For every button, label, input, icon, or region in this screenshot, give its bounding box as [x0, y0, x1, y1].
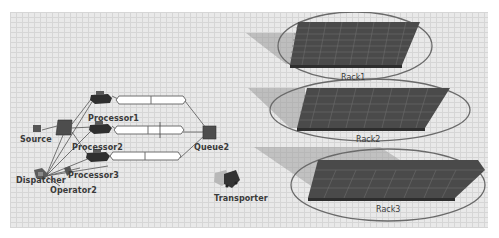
- conveyor-2[interactable]: [114, 122, 184, 138]
- rack2-label: Rack2: [356, 135, 380, 144]
- rack1[interactable]: [278, 12, 432, 80]
- conveyor-1[interactable]: [116, 96, 186, 104]
- model-3d-view[interactable]: Source Processor1 Processor2 Processor3 …: [10, 12, 488, 228]
- transporter-label: Transporter: [214, 194, 268, 203]
- processor3-label: Processor3: [68, 171, 119, 180]
- queue1-object[interactable]: [56, 120, 72, 135]
- processor1-object[interactable]: [90, 91, 112, 104]
- queue2-object[interactable]: [203, 126, 216, 139]
- processor1-label: Processor1: [88, 114, 139, 123]
- processor2-label: Processor2: [72, 143, 123, 152]
- rack1-label: Rack1: [341, 73, 365, 82]
- conveyor-3[interactable]: [110, 152, 181, 160]
- source-object[interactable]: [33, 125, 41, 132]
- source-label: Source: [20, 135, 52, 144]
- dispatcher-label: Dispatcher: [16, 176, 66, 185]
- rack3-label: Rack3: [376, 205, 400, 214]
- queue2-label: Queue2: [194, 143, 229, 152]
- operator2-label: Operator2: [50, 186, 97, 195]
- transporter-object[interactable]: [214, 170, 240, 188]
